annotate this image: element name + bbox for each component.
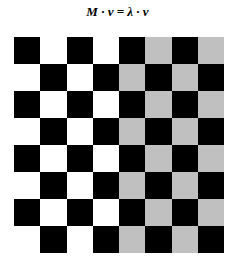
checkerboard [14, 37, 224, 253]
white-square [40, 145, 66, 172]
dark-square [172, 145, 198, 172]
white-square [93, 199, 119, 226]
gray-square [198, 37, 224, 64]
white-square [40, 199, 66, 226]
white-square [40, 37, 66, 64]
white-square [67, 172, 93, 199]
dark-square [119, 145, 145, 172]
gray-square [145, 199, 171, 226]
dark-square [40, 172, 66, 199]
dark-square [145, 64, 171, 91]
dark-square [14, 91, 40, 118]
dark-square [172, 91, 198, 118]
dark-square [172, 37, 198, 64]
dark-square [14, 145, 40, 172]
gray-square [172, 226, 198, 253]
gray-square [172, 64, 198, 91]
dark-square [198, 118, 224, 145]
dark-square [67, 37, 93, 64]
dark-square [119, 199, 145, 226]
white-square [67, 64, 93, 91]
white-square [14, 226, 40, 253]
dark-square [119, 91, 145, 118]
dark-square [172, 199, 198, 226]
gray-square [119, 226, 145, 253]
gray-square [198, 145, 224, 172]
dark-square [93, 118, 119, 145]
dark-square [93, 172, 119, 199]
dark-square [145, 172, 171, 199]
gray-square [172, 118, 198, 145]
equation-title: M · v = λ · v [0, 4, 235, 20]
gray-square [145, 91, 171, 118]
dark-square [93, 64, 119, 91]
white-square [40, 91, 66, 118]
dark-square [40, 118, 66, 145]
white-square [14, 118, 40, 145]
dark-square [40, 226, 66, 253]
dark-square [40, 64, 66, 91]
dark-square [67, 145, 93, 172]
dark-square [119, 37, 145, 64]
dark-square [93, 226, 119, 253]
dark-square [198, 172, 224, 199]
gray-square [119, 118, 145, 145]
dark-square [198, 226, 224, 253]
dark-square [14, 37, 40, 64]
dark-square [145, 118, 171, 145]
white-square [93, 145, 119, 172]
white-square [93, 91, 119, 118]
white-square [67, 226, 93, 253]
white-square [14, 64, 40, 91]
white-square [93, 37, 119, 64]
dark-square [67, 199, 93, 226]
dark-square [198, 64, 224, 91]
gray-square [145, 145, 171, 172]
white-square [67, 118, 93, 145]
gray-square [119, 64, 145, 91]
dark-square [145, 226, 171, 253]
gray-square [119, 172, 145, 199]
gray-square [145, 37, 171, 64]
gray-square [198, 199, 224, 226]
gray-square [172, 172, 198, 199]
dark-square [67, 91, 93, 118]
dark-square [14, 199, 40, 226]
white-square [14, 172, 40, 199]
gray-square [198, 91, 224, 118]
